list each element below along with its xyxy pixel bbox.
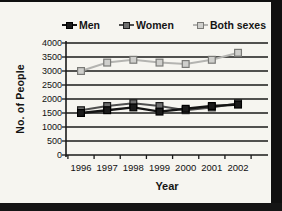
legend-label: Both sexes bbox=[210, 19, 266, 31]
legend-label: Women bbox=[136, 19, 174, 31]
legend-item-women: Women bbox=[119, 19, 174, 31]
y-tick-label: 3000 bbox=[34, 66, 62, 77]
y-axis-title: No. of People bbox=[14, 64, 26, 134]
y-tick-label: 0 bbox=[34, 150, 62, 161]
y-tick-label: 3500 bbox=[34, 52, 62, 63]
x-tick-label: 2001 bbox=[199, 162, 225, 173]
legend-item-both-sexes: Both sexes bbox=[193, 19, 266, 31]
y-tick-label: 2000 bbox=[34, 94, 62, 105]
both-sexes-data-point bbox=[78, 68, 85, 75]
y-tick-label: 1000 bbox=[34, 122, 62, 133]
both-sexes-data-point bbox=[182, 61, 189, 68]
legend-item-men: Men bbox=[62, 19, 100, 31]
men-data-point bbox=[130, 104, 137, 111]
both-sexes-data-point bbox=[130, 56, 137, 63]
both-sexes-data-point bbox=[104, 59, 111, 66]
y-tick-label: 500 bbox=[34, 136, 62, 147]
y-tick-label: 4000 bbox=[34, 38, 62, 49]
chart-legend: MenWomenBoth sexes bbox=[62, 19, 266, 31]
scan-border-top bbox=[0, 0, 282, 2]
scan-border-bottom bbox=[0, 203, 282, 211]
women-legend-marker-icon bbox=[119, 21, 134, 30]
men-data-point bbox=[208, 103, 215, 110]
men-legend-marker-icon bbox=[62, 21, 77, 30]
men-data-point bbox=[156, 108, 163, 115]
men-data-point bbox=[182, 105, 189, 112]
x-tick-label: 1998 bbox=[120, 162, 146, 173]
both-sexes-legend-marker-icon bbox=[193, 21, 208, 30]
x-tick-label: 2002 bbox=[225, 162, 251, 173]
men-data-point bbox=[78, 110, 85, 117]
men-data-point bbox=[235, 101, 242, 108]
both-sexes-data-point bbox=[156, 59, 163, 66]
both-sexes-data-point bbox=[235, 49, 242, 56]
line-chart: MenWomenBoth sexes No. of People Year 40… bbox=[0, 0, 282, 211]
x-tick-label: 2000 bbox=[173, 162, 199, 173]
x-tick-label: 1996 bbox=[68, 162, 94, 173]
y-tick-label: 1500 bbox=[34, 108, 62, 119]
legend-label: Men bbox=[79, 19, 100, 31]
both-sexes-data-point bbox=[208, 56, 215, 63]
men-data-point bbox=[104, 107, 111, 114]
x-axis-title: Year bbox=[66, 180, 268, 192]
x-tick-label: 1999 bbox=[147, 162, 173, 173]
scan-border-right bbox=[271, 0, 282, 211]
y-tick-label: 2500 bbox=[34, 80, 62, 91]
x-tick-label: 1997 bbox=[94, 162, 120, 173]
